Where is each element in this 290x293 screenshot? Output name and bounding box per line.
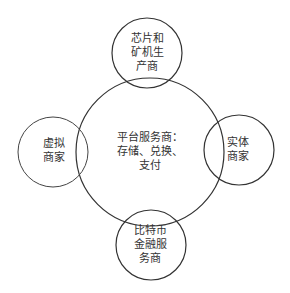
bottom-label-bitcoin-financial-services: 比特币 金融服 务商 [134, 224, 167, 266]
center-label: 平台服务商： 存储、兑换、 支付 [117, 131, 183, 173]
top-label-chip-miner-manufacturers: 芯片和 矿机生 产商 [131, 32, 164, 74]
left-label-virtual-merchants: 虚拟 商家 [43, 137, 65, 165]
right-label-physical-merchants: 实体 商家 [227, 136, 249, 164]
